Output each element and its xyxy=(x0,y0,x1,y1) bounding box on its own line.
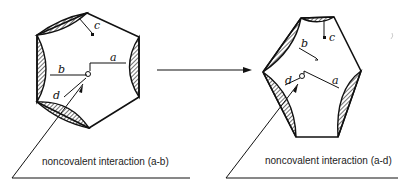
transition-arrow xyxy=(157,67,252,73)
caption-right: noncovalent interaction (a-d) xyxy=(265,155,392,166)
label-d-right: d xyxy=(285,74,292,87)
label-c-right: c xyxy=(329,31,335,44)
marker-c-right xyxy=(323,36,326,39)
label-a-left: a xyxy=(110,51,117,64)
arrowhead-icon xyxy=(243,67,252,73)
faint-mark xyxy=(391,33,393,39)
marker-c xyxy=(91,33,94,36)
label-b-left: b xyxy=(58,63,65,76)
caption-left: noncovalent interaction (a-b) xyxy=(42,156,169,167)
right-hexagon-distorted: c b a d xyxy=(263,17,361,137)
label-d-left: d xyxy=(53,89,60,102)
left-hexagon: c a b d xyxy=(37,13,139,128)
label-b-right: b xyxy=(301,37,308,50)
label-a-right: a xyxy=(332,74,339,87)
label-c-left: c xyxy=(94,19,100,32)
